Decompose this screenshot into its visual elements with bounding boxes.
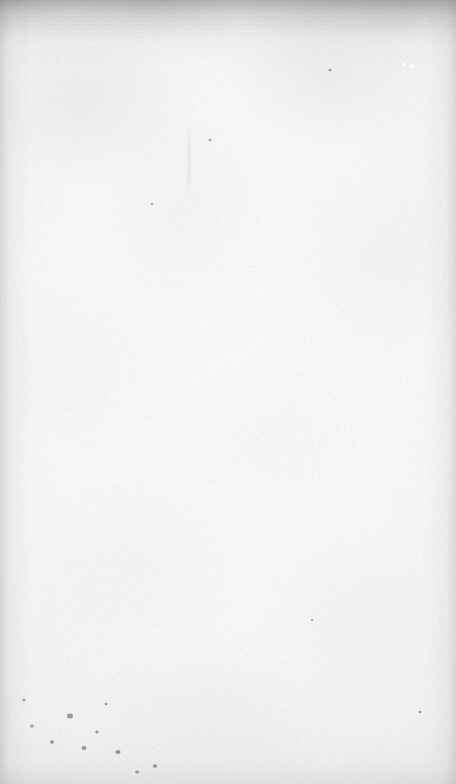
scanned-page [0, 0, 456, 784]
page-text-content [0, 0, 456, 784]
